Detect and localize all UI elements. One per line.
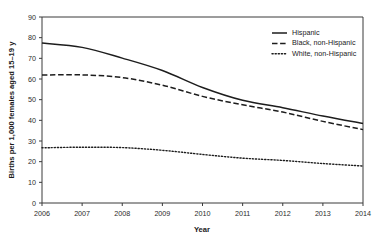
y-tick-label: 80	[28, 33, 36, 42]
legend-label: Hispanic	[292, 28, 320, 37]
y-tick-label: 50	[28, 95, 36, 104]
x-tick-label: 2008	[114, 209, 130, 218]
y-tick-label: 90	[28, 13, 36, 22]
y-tick-label: 30	[28, 137, 36, 146]
x-tick-label: 2012	[275, 209, 291, 218]
y-tick-label: 10	[28, 178, 36, 187]
x-tick-label: 2006	[34, 209, 50, 218]
x-tick-label: 2013	[315, 209, 331, 218]
y-tick-label: 60	[28, 75, 36, 84]
y-tick-label: 0	[32, 199, 36, 208]
y-tick-label: 70	[28, 54, 36, 63]
x-tick-label: 2009	[154, 209, 170, 218]
legend-label: White, non-Hispanic	[292, 49, 357, 58]
y-tick-label: 40	[28, 116, 36, 125]
x-tick-label: 2014	[355, 209, 371, 218]
x-tick-label: 2011	[235, 209, 250, 218]
chart-figure: 0102030405060708090 20062007200820092010…	[0, 0, 375, 239]
x-tick-label: 2007	[74, 209, 90, 218]
x-tick-label: 2010	[195, 209, 211, 218]
x-axis-title: Year	[194, 225, 210, 234]
legend-label: Black, non-Hispanic	[292, 38, 356, 47]
y-axis-title: Births per 1,000 females aged 15–19 y	[7, 41, 16, 179]
y-tick-label: 20	[28, 157, 36, 166]
line-chart-canvas: 0102030405060708090 20062007200820092010…	[0, 0, 375, 239]
